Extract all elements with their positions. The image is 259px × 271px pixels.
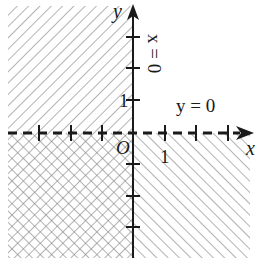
x-axis-label: x: [245, 137, 255, 159]
line-label-y-eq-0: y = 0: [176, 95, 215, 116]
y-unit-label: 1: [119, 90, 129, 111]
y-axis-label: y: [111, 0, 122, 23]
region-upper-left: [8, 6, 133, 133]
region-lower-left: [8, 133, 133, 258]
line-label-x-eq-0: x = 0: [144, 34, 165, 73]
region-lower-right: [133, 133, 250, 258]
origin-label: O: [116, 137, 130, 158]
x-unit-label: 1: [160, 146, 170, 167]
coordinate-diagram: y x O 1 1 y = 0 x = 0: [0, 0, 259, 271]
